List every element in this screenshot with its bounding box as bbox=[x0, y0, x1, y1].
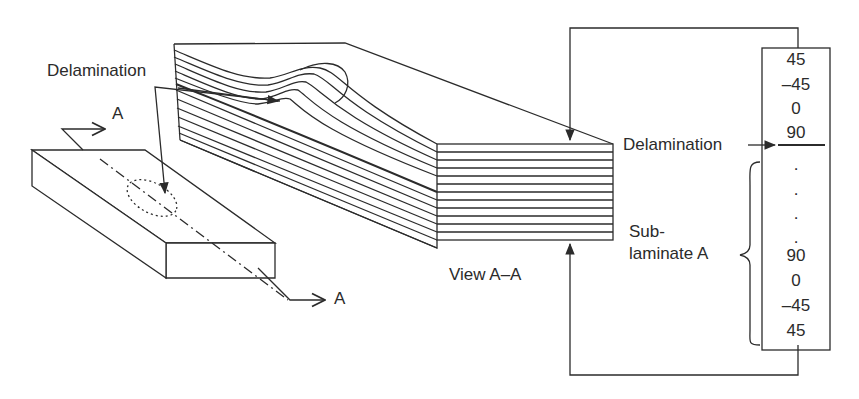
ply-dot: . bbox=[762, 180, 830, 200]
ply-value: 45 bbox=[762, 50, 830, 70]
ply-value: –45 bbox=[762, 296, 830, 316]
delamination-label-left: Delamination bbox=[47, 61, 146, 81]
ply-value: 90 bbox=[762, 123, 830, 143]
section-label-a-top: A bbox=[112, 104, 123, 124]
sublaminate-label-line2: laminate A bbox=[629, 244, 708, 264]
sublaminate-label-line1: Sub- bbox=[629, 222, 665, 242]
ply-dot: . bbox=[762, 155, 830, 175]
specimen-block bbox=[32, 150, 288, 300]
ply-value: 0 bbox=[762, 271, 830, 291]
ply-dot: . bbox=[762, 204, 830, 224]
view-label: View A–A bbox=[449, 265, 521, 285]
ply-value: 0 bbox=[762, 99, 830, 119]
delamination-label-right: Delamination bbox=[623, 135, 722, 155]
delamination-diagram: Delamination A A View A–A Delamination S… bbox=[0, 0, 859, 399]
diagram-drawing bbox=[0, 0, 859, 399]
ply-value: –45 bbox=[762, 75, 830, 95]
section-label-a-bottom: A bbox=[334, 289, 345, 309]
ply-dot: . bbox=[762, 228, 830, 248]
ply-value: 45 bbox=[762, 321, 830, 341]
ply-value: 90 bbox=[762, 246, 830, 266]
